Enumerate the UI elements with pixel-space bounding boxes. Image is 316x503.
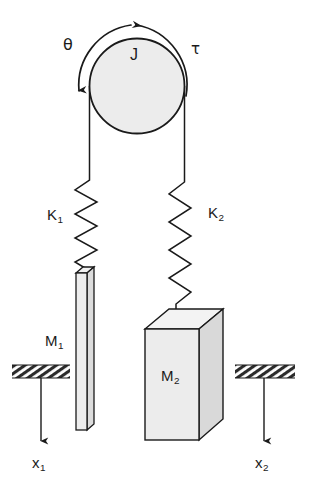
mass-m1-label: M1 bbox=[45, 333, 64, 348]
mass-m2-body bbox=[145, 309, 223, 440]
displacement-x2-label: x2 bbox=[255, 455, 269, 470]
spring-k1-label-base: K bbox=[47, 206, 57, 223]
mass-m1-label-sub: 1 bbox=[58, 340, 64, 351]
spring-k2 bbox=[169, 174, 191, 310]
mass-m1-body bbox=[76, 267, 94, 430]
displacement-x1-label-sub: 1 bbox=[40, 462, 46, 473]
spring-k1-label: K1 bbox=[47, 207, 63, 222]
mechanical-system-diagram: J θ τ K1 K2 M1 M2 x1 x2 bbox=[0, 0, 316, 503]
ground-support-right bbox=[235, 365, 295, 378]
spring-k1-label-sub: 1 bbox=[57, 214, 63, 225]
spring-k2-label: K2 bbox=[208, 205, 224, 220]
spring-k1 bbox=[75, 174, 97, 271]
displacement-x2-label-sub: 2 bbox=[263, 462, 269, 473]
mass-m1-label-base: M bbox=[45, 332, 58, 349]
displacement-x2-label-base: x bbox=[255, 454, 263, 471]
mass-m2-label-base: M bbox=[161, 367, 174, 384]
spring-k2-label-sub: 2 bbox=[218, 212, 224, 223]
displacement-x1-label-base: x bbox=[32, 454, 40, 471]
theta-angle-label: θ bbox=[63, 37, 73, 53]
tau-torque-label: τ bbox=[191, 42, 200, 57]
mass-m2-label-sub: 2 bbox=[174, 375, 180, 386]
displacement-x1-label: x1 bbox=[32, 455, 46, 470]
pulley-inertia-label: J bbox=[130, 47, 138, 63]
diagram-canvas bbox=[0, 0, 316, 503]
spring-k2-label-base: K bbox=[208, 204, 218, 221]
mass-m2-label: M2 bbox=[161, 368, 180, 383]
ground-support-left bbox=[12, 365, 70, 378]
